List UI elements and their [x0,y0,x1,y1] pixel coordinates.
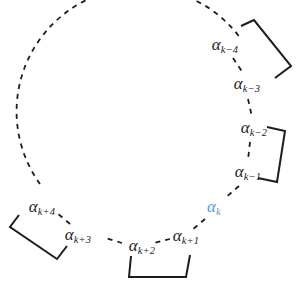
bracket-bottom-left [10,215,67,259]
node-label-alpha-k-plus-1: αk+1 [173,227,200,247]
alpha-glyph: α [65,225,74,244]
connector-k-plus-1-to-k-plus-2 [154,239,170,243]
bracket-bottom-center [129,255,190,277]
connector-k-2-to-k-1 [248,142,250,160]
sequence-circle-figure: αk−4 αk−3 αk−2 αk−1 αk αk+1 αk+2 αk+3 αk… [0,0,298,289]
node-label-alpha-k-plus-2: αk+2 [129,237,156,257]
alpha-subscript: k−3 [243,83,261,94]
node-label-alpha-k-plus-3: αk+3 [65,226,92,246]
alpha-subscript: k+3 [74,234,92,245]
connector-k-3-to-k-2 [248,99,252,117]
node-label-alpha-k-minus-4: αk−4 [212,36,239,56]
connector-group [57,58,252,243]
node-label-alpha-k-minus-3: αk−3 [234,75,261,95]
alpha-glyph: α [173,226,182,245]
alpha-glyph: α [212,35,221,54]
alpha-glyph: α [234,74,243,93]
alpha-glyph: α [129,236,138,255]
alpha-subscript: k+4 [38,206,56,217]
node-label-alpha-k: αk [207,198,221,218]
alpha-glyph: α [241,118,250,137]
bracket-top-right [241,20,291,78]
alpha-glyph: α [235,162,244,181]
node-label-alpha-k-minus-2: αk−2 [241,119,268,139]
alpha-glyph: α [29,197,38,216]
connector-k-4-to-k-3 [233,58,243,73]
connector-k-plus-3-to-k-plus-4 [57,213,70,224]
alpha-subscript: k+2 [138,245,156,256]
alpha-subscript: k−1 [244,171,262,182]
alpha-glyph: α [207,197,216,216]
connector-k-1-to-k [224,186,239,199]
alpha-subscript: k+1 [182,235,200,246]
connector-k-plus-2-to-k-plus-3 [106,238,122,243]
dashed-circle-arc [17,0,241,184]
node-label-alpha-k-plus-4: αk+4 [29,198,56,218]
alpha-subscript: k [216,206,221,217]
alpha-subscript: k−4 [221,44,239,55]
alpha-subscript: k−2 [250,127,268,138]
node-label-alpha-k-minus-1: αk−1 [235,163,262,183]
